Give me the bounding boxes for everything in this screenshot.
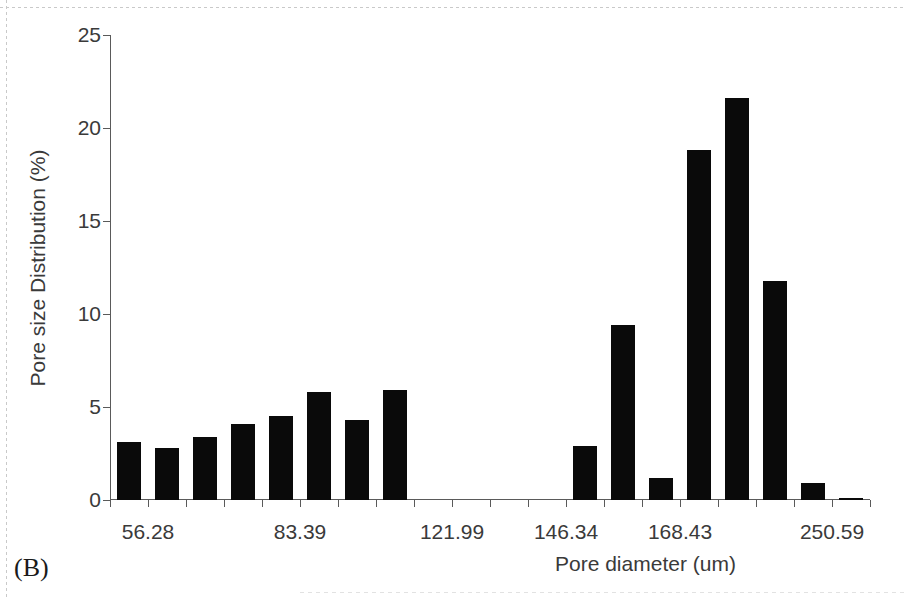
x-axis-tick	[490, 500, 491, 507]
bar	[839, 498, 863, 500]
x-axis-tick-label: 168.43	[648, 520, 712, 544]
x-axis-tick	[528, 500, 529, 507]
bar	[383, 390, 407, 500]
x-axis-tick	[718, 500, 719, 507]
x-axis-tick	[832, 500, 833, 507]
bar	[193, 437, 217, 500]
bar	[269, 416, 293, 500]
y-axis-tick-label: 10	[78, 302, 101, 326]
bar	[763, 281, 787, 500]
x-axis-tick	[756, 500, 757, 507]
bar	[573, 446, 597, 500]
bar	[231, 424, 255, 500]
y-axis-tick-label: 0	[89, 488, 101, 512]
y-axis-tick	[103, 128, 110, 129]
x-axis-tick-label: 56.28	[122, 520, 175, 544]
bar	[725, 98, 749, 500]
bar	[611, 325, 635, 500]
x-axis-tick	[642, 500, 643, 507]
scan-edge-top	[0, 7, 906, 8]
bar	[649, 478, 673, 500]
x-axis-tick-label: 121.99	[420, 520, 484, 544]
x-axis-tick	[604, 500, 605, 507]
bar	[345, 420, 369, 500]
panel-letter: (B)	[14, 553, 49, 583]
x-axis-tick	[300, 500, 301, 507]
x-axis-title: Pore diameter (um)	[555, 552, 736, 576]
x-axis-tick-label: 146.34	[534, 520, 598, 544]
x-axis-tick	[794, 500, 795, 507]
y-axis-tick-label: 15	[78, 209, 101, 233]
x-axis-tick	[148, 500, 149, 507]
y-axis-tick	[103, 35, 110, 36]
x-axis-tick	[338, 500, 339, 507]
x-axis-tick-label: 83.39	[274, 520, 327, 544]
bar	[307, 392, 331, 500]
y-axis-tick	[103, 221, 110, 222]
x-axis-tick	[262, 500, 263, 507]
bar	[155, 448, 179, 500]
x-axis-tick	[452, 500, 453, 507]
y-axis-tick	[103, 500, 110, 501]
bar-chart-plot-area: 0510152025 56.2883.39121.99146.34168.432…	[110, 35, 870, 500]
y-axis-tick-label: 20	[78, 116, 101, 140]
x-axis-tick	[224, 500, 225, 507]
scan-edge-bottom	[300, 592, 906, 593]
x-axis-tick	[870, 500, 871, 507]
x-axis-tick	[110, 500, 111, 507]
y-axis-tick-label: 25	[78, 23, 101, 47]
bar	[687, 150, 711, 500]
y-axis-line	[110, 35, 111, 500]
y-axis-tick	[103, 314, 110, 315]
y-axis-tick-label: 5	[89, 395, 101, 419]
bar	[801, 483, 825, 500]
x-axis-tick	[186, 500, 187, 507]
y-axis-title: Pore size Distribution (%)	[26, 149, 50, 386]
figure-panel-b: 0510152025 56.2883.39121.99146.34168.432…	[0, 0, 906, 597]
x-axis-tick	[376, 500, 377, 507]
y-axis-tick	[103, 407, 110, 408]
x-axis-tick	[566, 500, 567, 507]
bar	[117, 442, 141, 500]
scan-edge-left	[6, 0, 7, 597]
x-axis-tick	[680, 500, 681, 507]
x-axis-tick-label: 250.59	[800, 520, 864, 544]
x-axis-tick	[414, 500, 415, 507]
